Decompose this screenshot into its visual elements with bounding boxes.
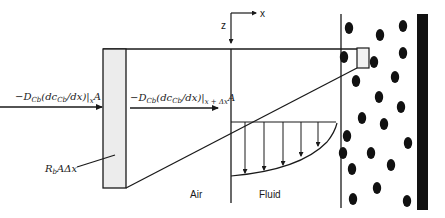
particle <box>376 29 384 41</box>
differential-element <box>357 48 369 68</box>
particle <box>370 56 378 68</box>
particle <box>345 22 353 34</box>
particle <box>399 20 407 32</box>
region-label-air: Air <box>190 189 203 200</box>
axis-label-x: x <box>260 8 265 19</box>
particle <box>367 147 375 159</box>
particle <box>340 51 348 63</box>
particle <box>358 112 366 124</box>
region-label-fluid: Fluid <box>259 189 281 200</box>
particle <box>375 91 383 103</box>
reaction-label: RbAΔx <box>44 163 77 176</box>
particle <box>387 159 395 171</box>
particle <box>349 193 357 205</box>
particle <box>348 163 356 175</box>
biofilm-particles <box>339 20 412 207</box>
particle <box>373 182 381 194</box>
particle <box>343 130 351 142</box>
particle <box>404 137 412 149</box>
velocity-profile <box>231 122 337 176</box>
particle <box>399 47 407 59</box>
particle <box>397 101 405 113</box>
particle <box>339 147 347 159</box>
axis-label-z: z <box>221 20 226 31</box>
projection-line <box>126 68 357 188</box>
solid-wall <box>417 14 428 210</box>
flux-in-label: −DCb(dcCb/dx)|xA <box>15 91 101 105</box>
coordinate-axes: x z <box>221 8 265 43</box>
profile-curve <box>231 123 337 176</box>
particle <box>380 118 388 130</box>
particle <box>403 195 411 207</box>
particle <box>391 71 399 83</box>
flux-out-label: −DCb(dcCb/dx)|x + ΔxA <box>130 92 235 106</box>
control-volume-element <box>103 49 126 188</box>
particle <box>352 75 360 87</box>
mass-balance-diagram: x z −DCb(dcCb/dx)|xA −DCb(dcCb/dx)|x + Δ… <box>0 0 445 218</box>
